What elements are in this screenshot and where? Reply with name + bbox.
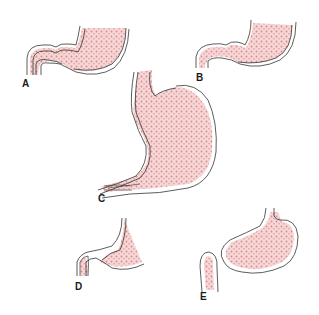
panel-label-a: A — [22, 78, 29, 89]
panel-label-b: B — [196, 72, 203, 83]
panel-c-illustration — [98, 70, 216, 198]
diagram-svg — [0, 0, 319, 315]
panel-a-illustration — [27, 26, 129, 75]
panel-label-e: E — [200, 291, 207, 302]
stomach-diagram: A B C D E — [0, 0, 319, 315]
panel-b-illustration — [196, 20, 296, 68]
panel-d-illustration — [77, 218, 144, 276]
panel-label-d: D — [75, 281, 82, 292]
panel-label-c: C — [98, 193, 105, 204]
panel-e-illustration — [200, 208, 298, 292]
